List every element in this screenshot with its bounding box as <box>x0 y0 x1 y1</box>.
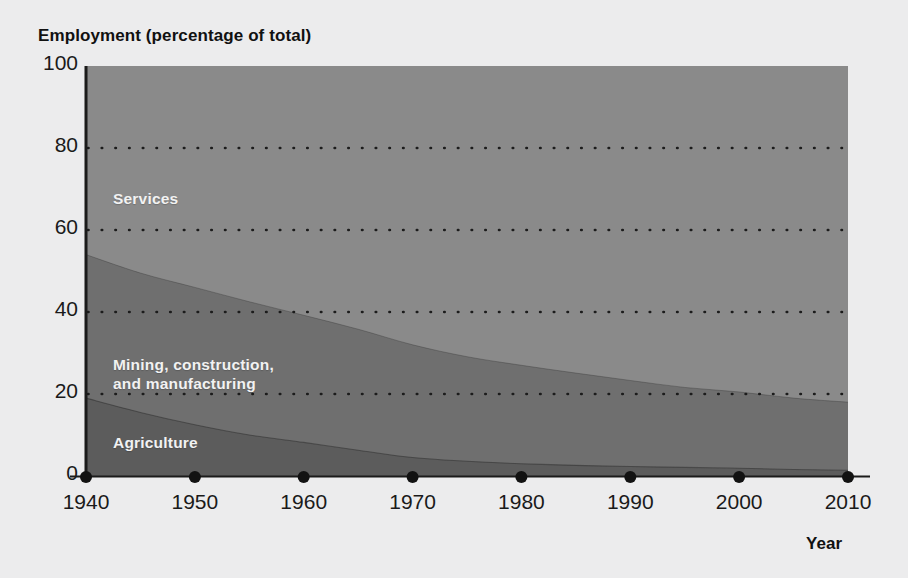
series-label-agriculture: Agriculture <box>113 434 198 453</box>
x-tick-dot-1970 <box>407 471 419 483</box>
x-tick-dot-1950 <box>189 471 201 483</box>
x-tick-dot-1940 <box>80 471 92 483</box>
chart-figure: Employment (percentage of total) Year <box>0 0 908 578</box>
y-tick-label-40: 40 <box>24 297 78 321</box>
x-tick-label-1990: 1990 <box>596 490 664 514</box>
series-label-services: Services <box>113 190 178 209</box>
x-tick-dot-2000 <box>733 471 745 483</box>
y-tick-label-20: 20 <box>24 379 78 403</box>
x-tick-label-1940: 1940 <box>52 490 120 514</box>
x-tick-dot-2010 <box>842 471 854 483</box>
x-tick-dot-1990 <box>624 471 636 483</box>
x-tick-label-1980: 1980 <box>487 490 555 514</box>
x-tick-dot-1980 <box>515 471 527 483</box>
x-tick-dot-1960 <box>298 471 310 483</box>
x-tick-label-1970: 1970 <box>379 490 447 514</box>
x-tick-label-1960: 1960 <box>270 490 338 514</box>
x-tick-label-1950: 1950 <box>161 490 229 514</box>
x-tick-label-2000: 2000 <box>705 490 773 514</box>
y-tick-label-0: 0 <box>24 461 78 485</box>
y-tick-label-80: 80 <box>24 133 78 157</box>
y-tick-label-60: 60 <box>24 215 78 239</box>
series-label-manufacturing: Mining, construction, and manufacturing <box>113 356 274 394</box>
x-tick-label-2010: 2010 <box>814 490 882 514</box>
y-tick-label-100: 100 <box>24 51 78 75</box>
